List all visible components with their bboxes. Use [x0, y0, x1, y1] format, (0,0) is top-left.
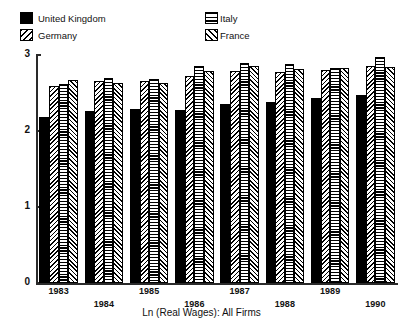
bar-group-1988	[262, 55, 307, 283]
bar-france-1987	[249, 66, 259, 283]
bar-italy-1990	[375, 57, 385, 283]
y-axis-tick-label: 1	[4, 200, 30, 211]
bar-united-kingdom-1989	[311, 98, 321, 283]
bar-italy-1987	[240, 63, 250, 283]
legend-item-germany: Germany	[20, 29, 77, 41]
bar-germany-1987	[230, 71, 240, 283]
bar-united-kingdom-1983	[39, 117, 49, 283]
x-axis-title: Ln (Real Wages): All Firms	[0, 307, 403, 318]
bar-france-1983	[68, 80, 78, 283]
bar-group-1983	[36, 55, 81, 283]
legend-label: Germany	[38, 30, 77, 41]
bar-italy-1988	[285, 64, 295, 283]
bar-united-kingdom-1985	[130, 109, 140, 283]
bar-france-1984	[113, 83, 123, 283]
bar-germany-1988	[275, 72, 285, 283]
bar-italy-1984	[104, 78, 114, 283]
bar-group-1987	[217, 55, 262, 283]
x-axis-label-1987: 1987	[217, 286, 263, 296]
bar-germany-1984	[94, 81, 104, 283]
bar-italy-1983	[59, 84, 69, 283]
bar-group-1985	[127, 55, 172, 283]
bar-united-kingdom-1986	[175, 110, 185, 283]
y-axis-tick-label: 0	[4, 276, 30, 287]
y-axis-tick-label: 3	[4, 48, 30, 59]
legend-item-united-kingdom: United Kingdom	[20, 12, 106, 24]
bar-france-1990	[385, 67, 395, 283]
bar-italy-1985	[149, 79, 159, 283]
legend-swatch-horizontal-icon	[205, 12, 218, 24]
bar-group-1986	[172, 55, 217, 283]
bar-chart: ECONOMICS AND THE MARKET United Kingdom …	[0, 0, 403, 331]
bar-group-1984	[81, 55, 126, 283]
legend-label: Italy	[220, 13, 237, 24]
bar-germany-1990	[366, 66, 376, 283]
bar-france-1986	[204, 71, 214, 283]
bar-germany-1986	[185, 76, 195, 283]
bar-italy-1989	[330, 68, 340, 283]
chart-title: ECONOMICS AND THE MARKET	[0, 0, 403, 5]
plot-area	[36, 55, 398, 283]
bar-germany-1985	[140, 81, 150, 283]
bar-germany-1989	[321, 70, 331, 283]
y-axis-tick-label: 2	[4, 124, 30, 135]
x-axis-label-1985: 1985	[126, 286, 172, 296]
bar-united-kingdom-1990	[356, 95, 366, 283]
legend-swatch-solid-icon	[20, 12, 33, 24]
legend-label: United Kingdom	[38, 13, 106, 24]
bar-united-kingdom-1987	[220, 104, 230, 283]
bar-germany-1983	[49, 86, 59, 283]
bar-group-1989	[308, 55, 353, 283]
bar-france-1988	[294, 69, 304, 283]
bar-italy-1986	[194, 66, 204, 283]
bar-france-1985	[159, 83, 169, 283]
bar-group-1990	[353, 55, 398, 283]
bar-france-1989	[340, 68, 350, 283]
bar-united-kingdom-1988	[266, 102, 276, 283]
x-axis-label-1983: 1983	[36, 286, 82, 296]
legend-swatch-diagonal-icon	[20, 29, 33, 41]
legend-item-italy: Italy	[205, 12, 237, 24]
legend-item-france: France	[205, 29, 250, 41]
x-axis-label-1989: 1989	[307, 286, 353, 296]
legend-swatch-hatch-icon	[205, 29, 218, 41]
bar-united-kingdom-1984	[85, 111, 95, 283]
legend-label: France	[220, 30, 250, 41]
chart-legend: United Kingdom Germany Italy France	[0, 12, 403, 46]
